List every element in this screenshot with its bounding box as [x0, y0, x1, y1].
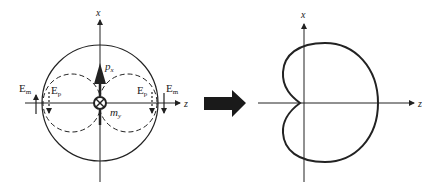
x-axis-label: x — [300, 9, 306, 20]
px-label: px — [104, 60, 115, 74]
transition-arrow-icon — [204, 90, 246, 117]
left-diagram: x z px my Em Ep Ep Em — [19, 7, 188, 182]
my-label: my — [110, 106, 122, 120]
z-axis-label: z — [183, 98, 188, 109]
my-into-page-icon — [94, 97, 106, 109]
em-right-label: Em — [166, 82, 179, 96]
em-left-label: Em — [19, 82, 32, 96]
diagram-canvas: x z px my Em Ep Ep Em x z — [0, 0, 443, 185]
right-diagram: x z — [258, 9, 422, 182]
ep-right-label: Ep — [137, 84, 148, 98]
ep-left-label: Ep — [51, 84, 62, 98]
z-axis-label: z — [417, 98, 422, 109]
x-axis-label: x — [95, 7, 101, 18]
